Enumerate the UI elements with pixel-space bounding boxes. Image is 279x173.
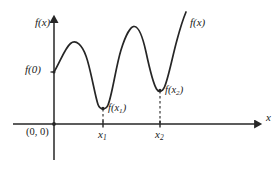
local-minimum-1-label-base: f(x [108, 102, 119, 113]
local-minimum-1-label: f(x1) [108, 103, 126, 115]
tick-label-x1: x1 [98, 129, 107, 141]
origin-point [52, 122, 56, 126]
tick-label-x1-sub: 1 [103, 133, 107, 142]
local-minimum-2-label: f(x2) [165, 85, 183, 97]
curve-label: f(x) [190, 17, 205, 28]
origin-label: (0, 0) [26, 127, 49, 138]
function-graph-figure: f(x) f(0) f(x) f(x1) f(x2) x1 x2 (0, 0) … [0, 0, 279, 173]
tick-label-x2: x2 [155, 129, 164, 141]
y-axis-label: f(x) [35, 17, 50, 28]
y-intercept-label: f(0) [25, 64, 41, 75]
tick-label-x2-sub: 2 [160, 133, 164, 142]
local-minimum-2-label-base: f(x [165, 84, 176, 95]
x-axis-label: x [266, 112, 271, 123]
local-minimum-2-label-close: ) [180, 84, 184, 95]
local-minimum-1-label-close: ) [123, 102, 127, 113]
